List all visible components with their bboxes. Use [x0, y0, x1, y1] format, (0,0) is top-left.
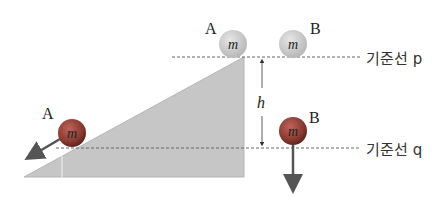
- ball-a-bottom-name: A: [42, 105, 54, 122]
- reference-line-p-label: 기준선 p: [366, 50, 422, 68]
- ball-b-bottom-mass: m: [288, 124, 298, 139]
- ball-a-velocity-arrow: [33, 139, 60, 155]
- ball-a-bottom-mass: m: [67, 126, 77, 141]
- ball-b-bottom-name: B: [309, 109, 320, 126]
- energy-diagram: 기준선 p 기준선 q h A m B m A m B m: [0, 0, 444, 197]
- reference-line-q-label: 기준선 q: [366, 141, 422, 159]
- ball-b-top-mass: m: [288, 37, 298, 52]
- ball-a-top-mass: m: [228, 37, 238, 52]
- height-label: h: [257, 94, 265, 111]
- inclined-plane: [24, 57, 244, 177]
- ball-b-top-name: B: [310, 20, 321, 37]
- ball-a-top-name: A: [205, 20, 217, 37]
